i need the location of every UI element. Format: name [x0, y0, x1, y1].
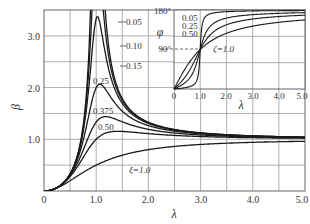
curve-label-0.50: 0.50 — [98, 122, 114, 132]
inset-label-0.50: 0.50 — [182, 29, 198, 39]
inset-x-tick-3: 3.0 — [247, 91, 259, 101]
x-tick-4: 4.0 — [247, 194, 260, 205]
x-tick-5: 5.0 — [296, 194, 309, 205]
x-tick-2: 2.0 — [142, 194, 155, 205]
inset-x-axis-label: λ — [237, 98, 243, 112]
y-axis-label: β — [9, 104, 23, 111]
inset-y-axis-label: φ — [157, 25, 164, 39]
inset-x-tick-2: 2.0 — [220, 91, 232, 101]
chart-canvas: 1.0 2.0 3.0 0 1.0 2.0 3.0 4.0 5.0 β λ 0.… — [0, 0, 310, 224]
x-axis-label: λ — [170, 207, 176, 221]
inset-y-tick-90: 90° — [158, 44, 171, 54]
curve-label-0.25: 0.25 — [93, 76, 109, 86]
inset-y-tick-180: 180° — [154, 6, 172, 16]
curve-label-zeta-1.0: ξ=1.0 — [129, 165, 151, 175]
inset-label-zeta-1.0: ζ=1.0 — [213, 44, 234, 54]
inset-x-tick-0: 0 — [172, 91, 177, 101]
y-tick-3: 3.0 — [28, 31, 41, 42]
curve-label-0.05: 0.05 — [126, 17, 142, 27]
x-tick-1: 1.0 — [90, 194, 103, 205]
inset-plot: 180° 90° φ 0 1.0 2.0 3.0 4.0 5.0 λ 0.05 … — [154, 6, 308, 112]
curve-label-0.15: 0.15 — [126, 61, 142, 71]
y-tick-2: 2.0 — [28, 83, 41, 94]
curve-label-0.10: 0.10 — [126, 41, 142, 51]
curve-label-0.375: 0.375 — [93, 106, 114, 116]
inset-x-tick-1: 1.0 — [194, 91, 206, 101]
inset-x-tick-4: 4.0 — [273, 91, 285, 101]
x-tick-0: 0 — [42, 194, 47, 205]
x-tick-3: 3.0 — [195, 194, 208, 205]
y-tick-1: 1.0 — [28, 134, 41, 145]
inset-x-tick-5: 5.0 — [296, 91, 308, 101]
